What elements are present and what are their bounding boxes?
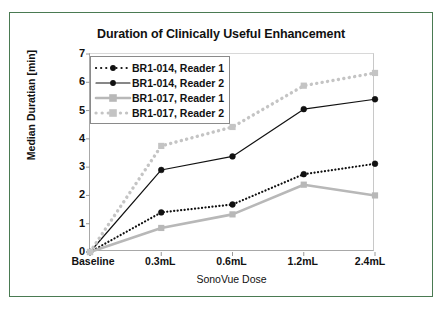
legend-key-icon bbox=[94, 106, 132, 120]
series-line bbox=[90, 185, 375, 252]
series-marker bbox=[372, 161, 378, 167]
legend-label: BR1-014, Reader 2 bbox=[132, 77, 224, 89]
legend-label: BR1-014, Reader 1 bbox=[132, 62, 224, 74]
series-marker bbox=[229, 124, 235, 130]
plot-wrapper: Median Duratian [min] 01234567 Baseline0… bbox=[10, 13, 434, 298]
y-tick-label: 5 bbox=[71, 104, 85, 116]
series-marker bbox=[372, 70, 378, 76]
series-marker bbox=[372, 192, 378, 198]
x-tick-label: 2.4mL bbox=[355, 255, 385, 267]
series-marker bbox=[301, 106, 307, 112]
series-marker bbox=[158, 143, 164, 149]
legend-label: BR1-017, Reader 2 bbox=[132, 107, 224, 119]
x-axis-tick-labels: Baseline0.3mL0.6mL1.2mL2.4mL bbox=[89, 255, 374, 271]
x-axis-title: SonoVue Dose bbox=[89, 273, 374, 285]
y-axis-tick-labels: 01234567 bbox=[67, 53, 85, 251]
y-tick-label: 2 bbox=[71, 188, 85, 200]
legend-item: BR1-017, Reader 2 bbox=[94, 105, 224, 120]
series-marker bbox=[230, 202, 236, 208]
series-marker bbox=[158, 210, 164, 216]
x-tick-label: 0.6mL bbox=[216, 255, 246, 267]
legend-item: BR1-014, Reader 2 bbox=[94, 75, 224, 90]
y-axis-title: Median Duratian [min] bbox=[25, 45, 37, 165]
legend-key-icon bbox=[94, 91, 132, 105]
legend-label: BR1-017, Reader 1 bbox=[132, 92, 224, 104]
series-marker bbox=[301, 182, 307, 188]
y-tick-label: 7 bbox=[71, 47, 85, 59]
y-tick-label: 3 bbox=[71, 160, 85, 172]
screenshot-root: Duration of Clinically Useful Enhancemen… bbox=[0, 0, 448, 313]
series-marker bbox=[229, 211, 235, 217]
legend-item: BR1-017, Reader 1 bbox=[94, 90, 224, 105]
series-marker bbox=[372, 96, 378, 102]
series-marker bbox=[230, 153, 236, 159]
x-tick-label: 0.3mL bbox=[145, 255, 175, 267]
legend-item: BR1-014, Reader 1 bbox=[94, 60, 224, 75]
y-tick-label: 1 bbox=[71, 217, 85, 229]
legend-key-icon bbox=[94, 61, 132, 75]
series-marker bbox=[301, 171, 307, 177]
y-tick-label: 4 bbox=[71, 132, 85, 144]
x-tick-label: Baseline bbox=[71, 255, 114, 267]
legend-key-icon bbox=[94, 76, 132, 90]
x-tick-label: 1.2mL bbox=[288, 255, 318, 267]
y-tick-label: 6 bbox=[71, 75, 85, 87]
figure-frame: Duration of Clinically Useful Enhancemen… bbox=[9, 12, 433, 297]
series-marker bbox=[301, 83, 307, 89]
series-marker bbox=[158, 225, 164, 231]
series-marker bbox=[158, 167, 164, 173]
chart-legend: BR1-014, Reader 1BR1-014, Reader 2BR1-01… bbox=[90, 56, 230, 124]
